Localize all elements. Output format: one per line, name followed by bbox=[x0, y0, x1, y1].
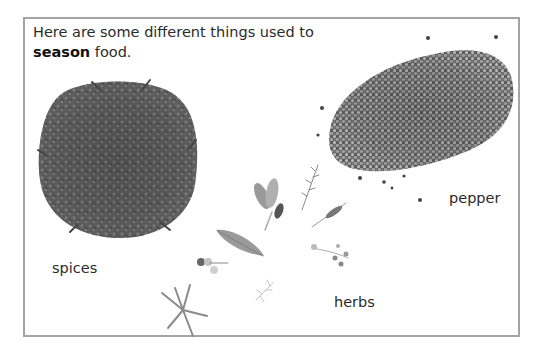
thyme-sprig bbox=[312, 203, 346, 227]
dill-sprig bbox=[256, 280, 273, 302]
cloves-pile-image bbox=[38, 80, 197, 238]
seasonings-illustration bbox=[0, 0, 539, 355]
oregano-sprig bbox=[311, 244, 349, 267]
bay-leaf bbox=[216, 230, 264, 256]
pepper-label: pepper bbox=[449, 190, 500, 206]
star-sprig bbox=[162, 285, 207, 336]
herbs-label: herbs bbox=[334, 294, 375, 310]
flower-sprig bbox=[197, 258, 228, 274]
sage-leaves bbox=[251, 177, 286, 230]
spices-label: spices bbox=[52, 260, 97, 276]
peppercorn-pile-image bbox=[316, 35, 513, 202]
rosemary-sprig bbox=[302, 165, 319, 210]
